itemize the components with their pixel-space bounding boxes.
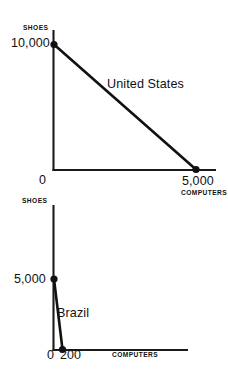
- series-annotation-united-states: United States: [107, 78, 184, 91]
- endpoint-dot-y-intercept: [50, 275, 57, 282]
- series-annotation-brazil: Brazil: [57, 307, 89, 320]
- x-axis-tick-label-zero: 0: [47, 349, 54, 362]
- chart-united-states: SHOES 10,000 0 5,000 COMPUTERS United St…: [0, 0, 228, 192]
- ppf-chart-page: { "page": { "background_color": "#ffffff…: [0, 0, 228, 384]
- ppf-line-united-states: [54, 45, 196, 170]
- y-axis-caption: SHOES: [23, 25, 48, 32]
- x-axis-caption: COMPUTERS: [112, 352, 158, 359]
- x-axis-tick-label-zero: 0: [39, 174, 46, 187]
- y-axis-caption: SHOES: [22, 198, 47, 205]
- x-axis-tick-label-max: 5,000: [182, 175, 214, 188]
- y-axis-tick-label-max: 10,000: [11, 37, 50, 50]
- y-axis-tick-label-max: 5,000: [14, 273, 46, 286]
- chart-brazil: SHOES 5,000 0 200 COMPUTERS Brazil: [0, 192, 228, 384]
- x-axis-tick-label-max: 200: [60, 349, 81, 362]
- endpoint-dot-y-intercept: [50, 41, 57, 48]
- endpoint-dot-x-intercept: [192, 166, 199, 173]
